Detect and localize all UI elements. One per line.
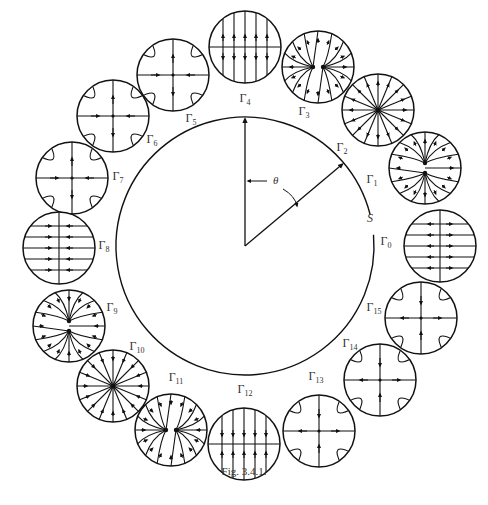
portraits-group: [23, 11, 476, 480]
figure-caption: Fig. 3.4.1.: [0, 465, 488, 477]
phase-portrait-10: [77, 350, 149, 422]
phase-portrait-15: [385, 282, 457, 354]
gamma-label-8: Γ8: [99, 238, 110, 254]
phase-portrait-5: [137, 39, 209, 111]
s-label: S: [367, 211, 373, 225]
phase-portrait-9: [33, 290, 105, 362]
gamma-label-3: Γ3: [299, 104, 310, 120]
gamma-label-2: Γ2: [337, 140, 348, 156]
gamma-label-4: Γ4: [240, 91, 251, 107]
gamma-label-10: Γ10: [130, 339, 145, 355]
gamma-label-9: Γ9: [107, 300, 118, 316]
gamma-label-6: Γ6: [147, 132, 158, 148]
phase-portrait-6: [77, 80, 149, 152]
gamma-label-11: Γ11: [169, 370, 184, 386]
main-circle-group: θS: [116, 117, 374, 375]
gamma-label-12: Γ12: [238, 382, 253, 398]
angled-radius-arrow: [245, 164, 342, 246]
phase-portrait-13: [283, 395, 355, 467]
gamma-label-13: Γ13: [309, 369, 324, 385]
phase-portrait-11: [135, 394, 207, 466]
gamma-label-5: Γ5: [186, 111, 197, 127]
gamma-label-7: Γ7: [113, 169, 124, 185]
phase-portrait-2: [342, 74, 414, 146]
gamma-label-0: Γ0: [381, 234, 392, 250]
gamma-label-1: Γ1: [367, 172, 378, 188]
theta-label: θ: [273, 174, 279, 186]
phase-portrait-3: [282, 31, 354, 103]
gamma-label-14: Γ14: [343, 336, 358, 352]
phase-portrait-8: [23, 212, 95, 284]
phase-portrait-1: [389, 132, 461, 204]
phase-portrait-0: [404, 210, 476, 282]
phase-portrait-14: [344, 344, 416, 416]
gamma-label-15: Γ15: [367, 300, 382, 316]
phase-portrait-4: [209, 11, 281, 83]
phase-portrait-7: [36, 142, 108, 214]
phase-portrait-figure: θS Γ0Γ1Γ2Γ3Γ4Γ5Γ6Γ7Γ8Γ9Γ10Γ11Γ12Γ13Γ14Γ1…: [0, 0, 488, 505]
